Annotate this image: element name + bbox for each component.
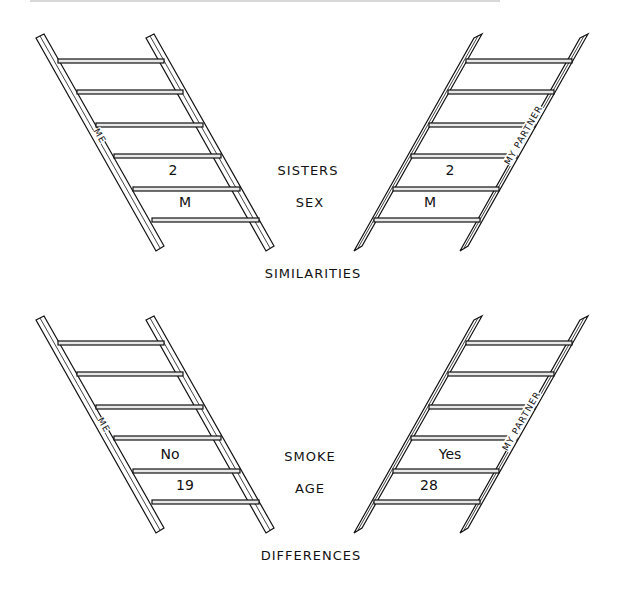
ladders-drawing bbox=[0, 0, 622, 592]
similarities-caption: SIMILARITIES bbox=[213, 266, 413, 281]
diff-partner-age: 28 bbox=[399, 477, 459, 493]
sim-me-sex: M bbox=[155, 194, 215, 210]
differences-caption: DIFFERENCES bbox=[211, 548, 411, 563]
sim-me-sisters: 2 bbox=[143, 162, 203, 178]
similarities-ladder-me bbox=[36, 34, 274, 251]
sim-attr-sisters: SISTERS bbox=[268, 163, 348, 178]
ladder-diagram: ME MY PARTNER ME MY PARTNER 2 M SISTERS … bbox=[0, 0, 622, 592]
sim-attr-sex: SEX bbox=[280, 195, 340, 210]
sim-partner-sex: M bbox=[400, 194, 460, 210]
diff-me-smoke: No bbox=[140, 446, 200, 462]
differences-ladder-partner bbox=[354, 316, 588, 533]
diff-attr-age: AGE bbox=[285, 481, 335, 496]
diff-me-age: 19 bbox=[155, 477, 215, 493]
diff-attr-smoke: SMOKE bbox=[275, 449, 345, 464]
differences-ladder-me bbox=[36, 316, 274, 533]
sim-partner-sisters: 2 bbox=[420, 162, 480, 178]
diff-partner-smoke: Yes bbox=[420, 446, 480, 462]
similarities-ladder-partner bbox=[354, 34, 588, 251]
